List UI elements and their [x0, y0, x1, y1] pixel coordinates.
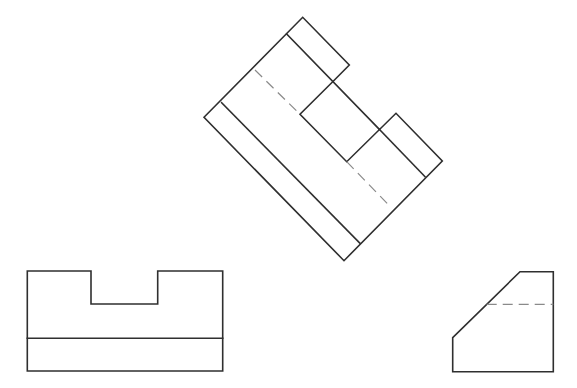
front-view-outline [27, 271, 222, 371]
orthographic-drawing [0, 0, 577, 388]
rotated-view-hidden-line-1 [255, 70, 300, 114]
rotated-view [204, 17, 442, 260]
side-view-outline [453, 272, 554, 372]
rotated-view-hidden-line-2 [347, 162, 391, 208]
side-view [453, 272, 554, 372]
front-view [27, 271, 222, 371]
rotated-view-outline [204, 17, 442, 260]
rotated-view-edge-line-long [222, 103, 360, 244]
